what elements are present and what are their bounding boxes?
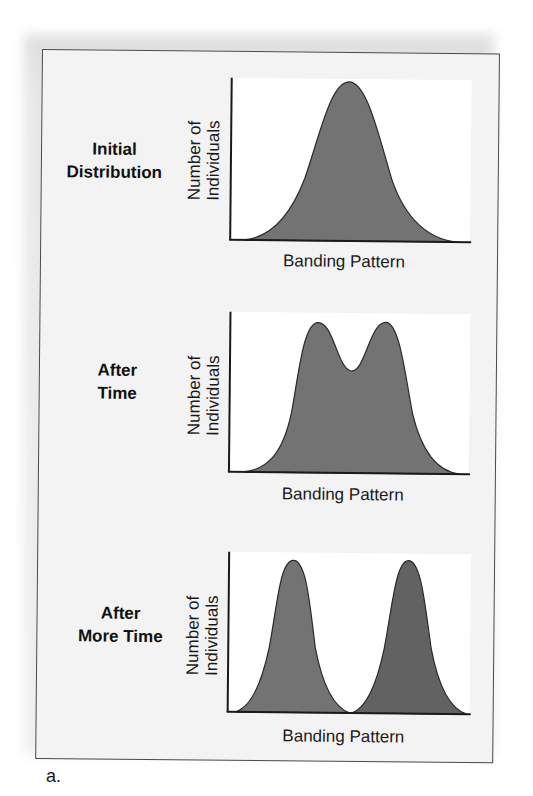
plot-area [228, 312, 475, 479]
stage-label-line: Initial [62, 137, 167, 161]
distribution-chart-initial [229, 78, 476, 245]
stage-label: After Time [75, 358, 160, 405]
y-axis-label-line: Individuals [203, 346, 223, 446]
y-axis-label: Number of Individuals [183, 585, 222, 685]
plot-area [227, 552, 474, 719]
x-axis-label: Banding Pattern [283, 251, 405, 272]
stage-label: Initial Distribution [62, 137, 167, 184]
distribution-chart-after-more-time [227, 552, 474, 719]
figure-caption: a. [46, 766, 61, 787]
distribution-chart-after-time [228, 312, 475, 479]
x-axis-label: Banding Pattern [282, 726, 404, 747]
stage-label-line: After [65, 601, 175, 625]
figure-box: Initial Distribution Number of Individua… [35, 49, 500, 763]
stage-label-line: Distribution [62, 160, 167, 184]
y-axis-label-line: Number of [184, 110, 204, 210]
y-axis-label-line: Number of [183, 585, 203, 685]
y-axis-label-line: Individuals [202, 586, 222, 686]
y-axis-label-line: Number of [184, 345, 204, 445]
y-axis-label: Number of Individuals [184, 110, 223, 210]
stage-label: After More Time [65, 601, 175, 648]
plot-area [229, 78, 476, 245]
x-axis-label: Banding Pattern [282, 484, 404, 505]
stage-label-line: Time [75, 381, 160, 405]
stage-label-line: After [75, 358, 160, 382]
stage-label-line: More Time [65, 624, 175, 648]
y-axis-label-line: Individuals [203, 111, 223, 211]
y-axis-label: Number of Individuals [184, 345, 223, 445]
